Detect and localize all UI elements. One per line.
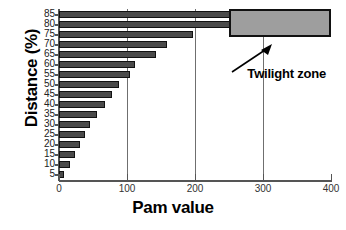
bar-60 xyxy=(59,61,135,68)
x-axis-title: Pam value xyxy=(0,198,346,218)
x-tick-label-400: 400 xyxy=(323,183,340,194)
bar-row xyxy=(59,81,331,88)
bar-75 xyxy=(59,31,193,38)
bar-row xyxy=(59,121,331,128)
twilight-zone-rectangle xyxy=(229,9,331,37)
bar-70 xyxy=(59,41,167,48)
bar-65 xyxy=(59,51,156,58)
x-tick-300 xyxy=(263,174,264,181)
bar-row xyxy=(59,41,331,48)
bar-55 xyxy=(59,71,130,78)
bar-10 xyxy=(59,161,70,168)
x-tick-100 xyxy=(127,174,128,181)
bar-50 xyxy=(59,81,119,88)
bar-row xyxy=(59,151,331,158)
bar-chart: Distance (%) 858075706560555045403530252… xyxy=(0,0,346,230)
bar-20 xyxy=(59,141,80,148)
bar-85 xyxy=(59,11,232,18)
bar-45 xyxy=(59,91,112,98)
bar-row xyxy=(59,161,331,168)
x-tick-200 xyxy=(195,174,196,181)
x-tick-label-200: 200 xyxy=(187,183,204,194)
bar-row xyxy=(59,101,331,108)
bar-35 xyxy=(59,111,97,118)
x-tick-label-100: 100 xyxy=(119,183,136,194)
x-tick-0 xyxy=(59,174,60,181)
twilight-zone-label: Twilight zone xyxy=(247,66,326,81)
bar-15 xyxy=(59,151,75,158)
bar-row xyxy=(59,51,331,58)
bar-30 xyxy=(59,121,90,128)
x-tick-label-300: 300 xyxy=(255,183,272,194)
plot-area xyxy=(59,9,331,180)
bar-80 xyxy=(59,21,232,28)
bar-row xyxy=(59,131,331,138)
y-axis-tick-labels: 858075706560555045403530252015105 xyxy=(20,9,55,180)
bar-row xyxy=(59,91,331,98)
y-tick-label-5: 5 xyxy=(23,168,55,179)
x-tick-400 xyxy=(331,174,332,181)
bar-25 xyxy=(59,131,85,138)
bar-row xyxy=(59,111,331,118)
x-tick-label-0: 0 xyxy=(56,183,62,194)
bar-row xyxy=(59,141,331,148)
bar-40 xyxy=(59,101,105,108)
